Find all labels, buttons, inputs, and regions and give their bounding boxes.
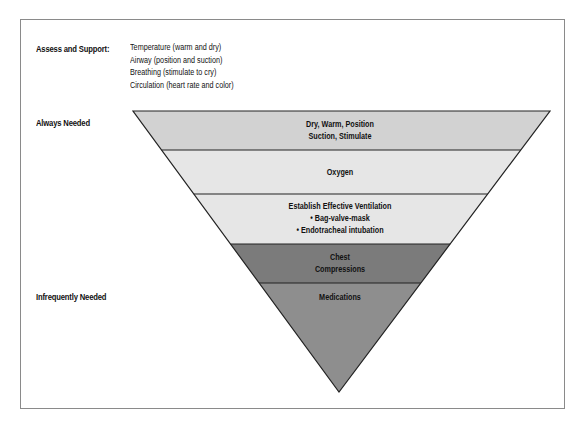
band-text-ventilation: Establish Effective Ventilation • Bag-va…	[289, 200, 392, 236]
band-text-medications: Medications	[319, 291, 361, 303]
band-text-oxygen: Oxygen	[327, 166, 354, 178]
band-line: Dry, Warm, Position	[306, 118, 374, 130]
band-line: • Endotracheal intubation	[289, 224, 392, 236]
band-line: Chest	[315, 251, 365, 263]
band-line: Medications	[319, 291, 361, 303]
band-line: Compressions	[315, 263, 365, 275]
band-text-dry-warm: Dry, Warm, Position Suction, Stimulate	[306, 118, 374, 142]
band-line: • Bag-valve-mask	[289, 212, 392, 224]
band-line: Oxygen	[327, 166, 354, 178]
band-line: Suction, Stimulate	[306, 130, 374, 142]
band-text-compressions: Chest Compressions	[315, 251, 365, 275]
band-line: Establish Effective Ventilation	[289, 200, 392, 212]
